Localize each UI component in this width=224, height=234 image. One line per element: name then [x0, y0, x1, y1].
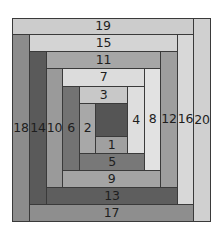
strip-1: 1: [95, 136, 128, 154]
strip-7: 7: [62, 68, 145, 87]
strip-4: 4: [127, 86, 145, 154]
strip-label: 19: [95, 20, 110, 33]
strip-label: 16: [178, 113, 193, 126]
strip-label: 15: [96, 37, 111, 50]
strip-17: 17: [29, 204, 194, 222]
strip-label: 1: [108, 139, 116, 152]
strip-label: 7: [100, 71, 108, 84]
strip-11: 11: [46, 51, 161, 69]
strip-label: 13: [104, 190, 119, 203]
strip-12: 12: [160, 51, 178, 188]
log-cabin-quilt-block: 1 2 3 4 5 6 7 8 9 10 11 12 13 14 15 16 1…: [0, 0, 224, 234]
strip-label: 12: [161, 113, 176, 126]
strip-20: 20: [193, 18, 211, 222]
strip-9: 9: [62, 170, 161, 188]
strip-label: 4: [132, 114, 140, 127]
strip-5: 5: [79, 153, 145, 171]
strip-3: 3: [79, 86, 128, 104]
strip-label: 8: [149, 113, 157, 126]
strip-10: 10: [46, 68, 63, 188]
strip-14: 14: [29, 51, 47, 205]
strip-label: 10: [47, 122, 62, 135]
strip-8: 8: [144, 68, 161, 171]
strip-label: 2: [84, 122, 92, 135]
center-square: [95, 103, 128, 137]
strip-19: 19: [12, 18, 194, 35]
strip-label: 3: [100, 89, 108, 102]
strip-13: 13: [46, 187, 178, 205]
strip-6: 6: [62, 86, 80, 171]
strip-label: 17: [104, 207, 119, 220]
strip-label: 9: [108, 173, 116, 186]
strip-label: 11: [96, 54, 111, 67]
strip-label: 5: [108, 156, 116, 169]
strip-label: 18: [13, 122, 28, 135]
strip-label: 14: [30, 122, 45, 135]
strip-18: 18: [12, 34, 30, 222]
strip-label: 6: [67, 122, 75, 135]
strip-2: 2: [79, 103, 96, 154]
strip-15: 15: [29, 34, 178, 52]
strip-label: 20: [194, 114, 209, 127]
strip-16: 16: [177, 34, 194, 205]
